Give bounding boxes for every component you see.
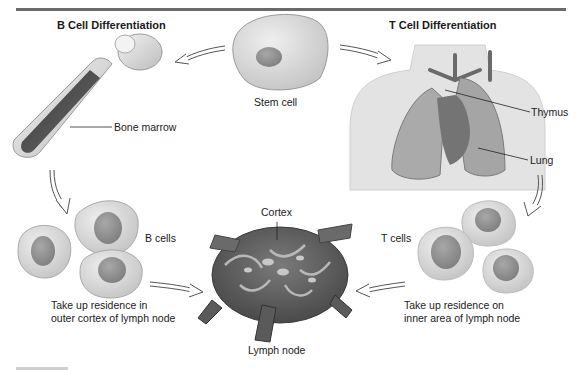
b-residence-text: Take up residence in outer cortex of lym… [51,299,175,325]
t-residence-text: Take up residence on inner area of lymph… [404,299,520,325]
b-residence-line-1: Take up residence in [51,299,175,312]
thymus-label: Thymus [531,106,568,119]
torso-illustration [350,45,545,190]
t-residence-line-1: Take up residence on [404,299,520,312]
arrow-tcells-to-node [356,282,405,297]
b-cells-illustration [18,201,142,298]
bone-illustration [13,34,162,157]
stem-cell-illustration [233,14,328,90]
arrow-stem-to-bone [175,46,225,64]
bone-marrow-label: Bone marrow [114,121,176,134]
cortex-label: Cortex [261,206,292,219]
lymph-node-illustration [198,222,352,342]
lymph-node-label: Lymph node [248,344,305,357]
lung-label: Lung [530,154,553,167]
stem-cell-label: Stem cell [254,96,297,109]
t-cells-illustration [418,201,533,293]
b-cell-differentiation-title: B Cell Differentiation [57,19,166,31]
t-residence-line-2: inner area of lymph node [404,312,520,325]
t-cells-label: T cells [381,232,411,245]
arrow-bcells-to-node [150,282,203,297]
arrow-stem-to-thymus [340,45,391,64]
b-cells-label: B cells [145,232,176,245]
b-residence-line-2: outer cortex of lymph node [51,312,175,325]
t-cell-differentiation-title: T Cell Differentiation [389,19,497,31]
arrow-bone-to-bcells [50,170,70,214]
